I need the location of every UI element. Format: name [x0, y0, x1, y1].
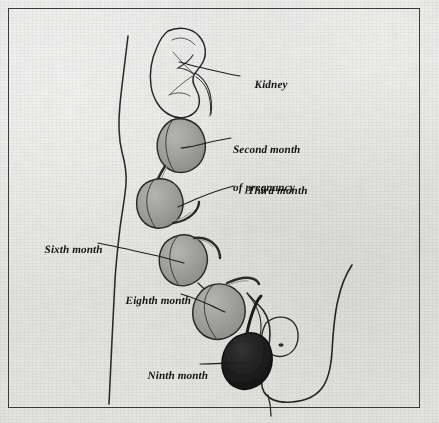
ninth-month-label: Ninth month	[136, 357, 208, 395]
second-month-label-line1: Second month	[233, 144, 300, 157]
bladder-marking	[278, 343, 283, 346]
kidney-hilum	[178, 55, 194, 74]
kidney-label: Kidney	[243, 66, 288, 104]
kidney-upper-pole-crease	[172, 38, 195, 45]
leader-line-third-month	[178, 186, 234, 207]
kidney-lower-pole-crease	[169, 93, 190, 96]
uterus-eighth-month-body	[193, 284, 246, 340]
third-month-label-text: Third month	[248, 185, 308, 197]
ninth-month-label-text: Ninth month	[148, 370, 208, 382]
eighth-month-label-text: Eighth month	[126, 295, 192, 307]
illustration-page: Kidney Second month of pregnancy Third m…	[0, 0, 439, 423]
sixth-month-label: Sixth month	[33, 231, 103, 269]
sixth-month-label-text: Sixth month	[45, 244, 103, 256]
uterus-second-month-body	[157, 119, 205, 173]
eighth-month-label: Eighth month	[114, 282, 191, 320]
body-contour-line	[109, 36, 128, 404]
kidney-outline	[150, 28, 205, 118]
uterus-ninth-month-body	[222, 333, 272, 390]
kidney-internal-stria-2	[170, 75, 194, 94]
uterus-sixth-month-body	[159, 235, 207, 286]
third-month-label: Third month	[236, 172, 307, 210]
anatomy-artwork	[0, 0, 439, 423]
kidney-label-text: Kidney	[255, 79, 288, 91]
